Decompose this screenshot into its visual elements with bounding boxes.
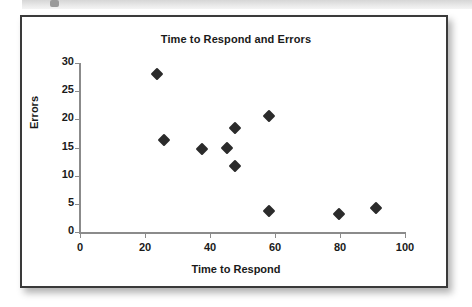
x-axis-title: Time to Respond: [22, 263, 450, 275]
y-tick-mark: [75, 63, 80, 64]
y-tick-mark: [75, 119, 80, 120]
x-tick-label: 60: [269, 241, 281, 253]
y-tick-label: 0: [68, 224, 74, 236]
y-tick-mark: [75, 91, 80, 92]
x-tick-label: 20: [139, 241, 151, 253]
scatter-point: [229, 160, 242, 173]
page-top-bar-marker: [50, 0, 59, 7]
y-axis-title: Errors: [28, 96, 40, 129]
scatter-point: [229, 121, 242, 134]
x-tick-mark: [275, 233, 276, 238]
x-tick-mark: [340, 233, 341, 238]
y-tick-label: 30: [62, 55, 74, 67]
scatter-point: [263, 110, 276, 123]
x-tick-mark: [405, 233, 406, 238]
scatter-point: [370, 201, 383, 214]
y-tick-mark: [75, 176, 80, 177]
scatter-point: [263, 205, 276, 218]
plot-area: 051015202530 020406080100: [80, 63, 405, 232]
y-tick-label: 20: [62, 111, 74, 123]
x-tick-label: 0: [77, 241, 83, 253]
x-axis-line: [79, 232, 406, 234]
scatter-point: [333, 208, 346, 221]
figure-card: Time to Respond and Errors Errors Time t…: [20, 15, 448, 288]
x-tick-label: 80: [334, 241, 346, 253]
scatter-point: [221, 141, 234, 154]
scatter-point: [157, 134, 170, 147]
y-tick-label: 5: [68, 196, 74, 208]
x-tick-label: 40: [204, 241, 216, 253]
y-tick-label: 10: [62, 168, 74, 180]
y-tick-mark: [75, 204, 80, 205]
y-tick-mark: [75, 148, 80, 149]
page-top-bar: [22, 0, 472, 9]
x-tick-mark: [210, 233, 211, 238]
y-tick-label: 15: [62, 140, 74, 152]
x-tick-label: 100: [396, 241, 414, 253]
scatter-point: [151, 68, 164, 81]
chart-title: Time to Respond and Errors: [22, 33, 450, 45]
x-tick-mark: [145, 233, 146, 238]
scatter-point: [196, 143, 209, 156]
y-tick-label: 25: [62, 83, 74, 95]
x-tick-mark: [80, 233, 81, 238]
